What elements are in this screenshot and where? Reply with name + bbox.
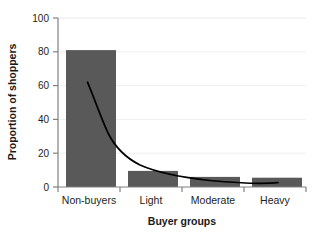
- chart-canvas: 100 80 60 40 20 0 Non-buyers Light Moder…: [0, 0, 321, 240]
- y-tick-label-100: 100: [32, 13, 49, 24]
- x-tick-label-moderate: Moderate: [191, 194, 236, 206]
- x-axis-title: Buyer groups: [148, 215, 216, 227]
- x-tick-marks: [58, 187, 306, 192]
- x-tick-label-heavy: Heavy: [260, 194, 291, 206]
- x-tick-label-light: Light: [140, 194, 163, 206]
- y-tick-label-20: 20: [38, 148, 50, 159]
- bar-light: [128, 171, 178, 187]
- y-tick-label-0: 0: [43, 182, 49, 193]
- y-tick-label-80: 80: [38, 46, 50, 57]
- y-tick-marks: [53, 18, 58, 187]
- y-axis-title: Proportion of shoppers: [6, 44, 18, 161]
- y-tick-label-60: 60: [38, 80, 50, 91]
- y-tick-label-40: 40: [38, 114, 50, 125]
- bar-chart-figure: 100 80 60 40 20 0 Non-buyers Light Moder…: [0, 0, 321, 240]
- bar-non-buyers: [66, 50, 116, 187]
- x-tick-label-non-buyers: Non-buyers: [62, 194, 116, 206]
